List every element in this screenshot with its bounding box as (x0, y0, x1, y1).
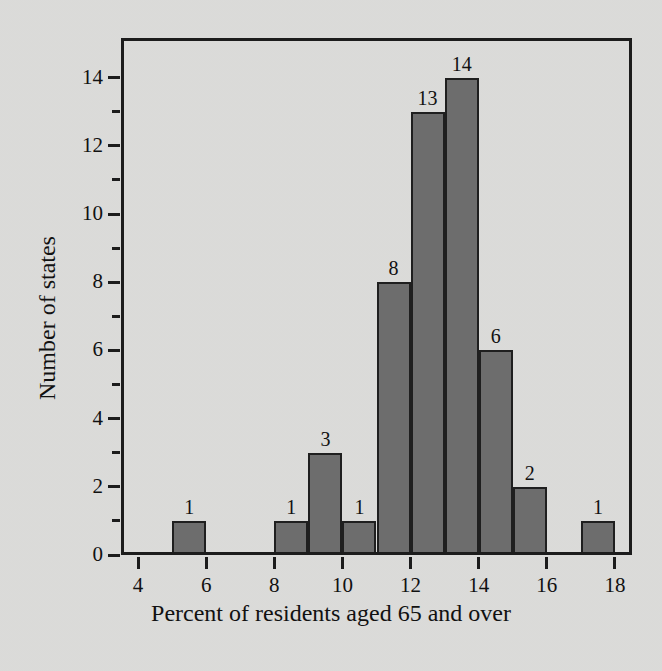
y-axis-minor-tick (112, 247, 120, 250)
y-axis-minor-tick (112, 383, 120, 386)
y-axis-tick (108, 349, 120, 352)
y-axis-tick-label: 2 (51, 474, 103, 499)
x-axis-tick-label: 10 (317, 573, 367, 598)
x-axis-tick (137, 557, 140, 569)
x-axis-tick-label: 16 (522, 573, 572, 598)
y-axis-tick (108, 213, 120, 216)
x-axis-tick-label: 14 (454, 573, 504, 598)
x-axis-tick (613, 557, 616, 569)
y-axis-minor-tick (112, 451, 120, 454)
y-axis-minor-tick (112, 519, 120, 522)
y-axis-minor-tick (112, 178, 120, 181)
y-axis-tick-label: 0 (51, 542, 103, 567)
x-axis-tick-label: 6 (181, 573, 231, 598)
x-axis-tick (205, 557, 208, 569)
y-axis-tick-label: 12 (51, 133, 103, 158)
y-axis-tick-label: 4 (51, 406, 103, 431)
y-axis-tick-label: 14 (51, 65, 103, 90)
x-axis-tick (409, 557, 412, 569)
y-axis-tick (108, 76, 120, 79)
x-axis-tick-label: 12 (386, 573, 436, 598)
x-axis-tick-label: 18 (590, 573, 640, 598)
y-axis-tick (108, 417, 120, 420)
y-axis-tick (108, 485, 120, 488)
plot-frame (121, 38, 632, 555)
y-axis-tick (108, 144, 120, 147)
x-axis-tick (341, 557, 344, 569)
y-axis-tick (108, 281, 120, 284)
y-axis-minor-tick (112, 315, 120, 318)
x-axis-title: Percent of residents aged 65 and over (0, 600, 662, 627)
x-axis-tick-label: 4 (113, 573, 163, 598)
x-axis-tick (273, 557, 276, 569)
y-axis-tick-label: 10 (51, 201, 103, 226)
y-axis-minor-tick (112, 110, 120, 113)
x-axis-tick-label: 8 (249, 573, 299, 598)
y-axis-title: Number of states (34, 236, 61, 400)
x-axis-tick (545, 557, 548, 569)
x-axis-tick (477, 557, 480, 569)
y-axis-tick (108, 554, 120, 557)
